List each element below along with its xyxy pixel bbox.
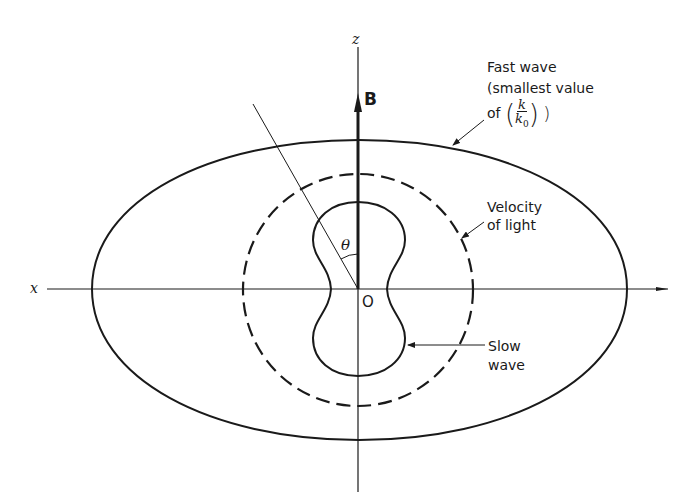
origin-label: O xyxy=(362,293,374,311)
paren-open: ( xyxy=(505,99,515,129)
b-field-arrowhead xyxy=(354,93,362,112)
b-field-label: B xyxy=(364,90,377,108)
fraction-denominator: k0 xyxy=(515,112,529,131)
theta-label: θ xyxy=(341,236,350,254)
fast-wave-label-line1: Fast wave xyxy=(487,58,557,76)
z-axis-label: z xyxy=(352,30,359,48)
fast-wave-label-line3: of (kk0) ) xyxy=(487,98,550,131)
slow-wave-label-line2: wave xyxy=(488,356,525,374)
theta-arc xyxy=(341,254,358,259)
velocity-label-line2: of light xyxy=(487,216,536,234)
k-over-k0-fraction: kk0 xyxy=(515,98,529,131)
slow-wave-label-line1: Slow xyxy=(488,337,521,355)
fraction-numerator: k xyxy=(517,98,527,112)
x-axis-label: x xyxy=(30,279,38,297)
wave-normal-diagram: z x O B θ Fast wave (smallest value of (… xyxy=(0,0,694,502)
x-axis-arrowhead xyxy=(656,287,668,291)
fast-wave-of-text: of xyxy=(487,105,501,121)
fast-wave-label-line2: (smallest value xyxy=(487,79,594,97)
theta-direction-line xyxy=(253,104,358,289)
fast-wave-leader xyxy=(453,120,484,145)
velocity-label-line1: Velocity xyxy=(487,198,542,216)
velocity-leader xyxy=(462,222,484,238)
paren-close-outer: ) xyxy=(543,103,550,124)
paren-close: ) xyxy=(529,99,539,129)
